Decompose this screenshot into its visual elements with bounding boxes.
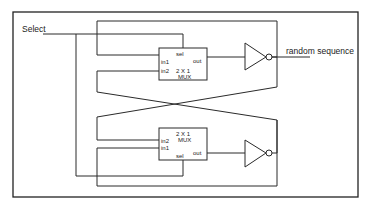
mux-bottom: 2 X 1 MUX in2 in1 out sel [159,128,207,160]
mux-top-out-label: out [193,58,202,64]
inverter-top-icon [245,43,272,70]
bottom-inverter-out-wire [272,120,277,153]
output-label: random sequence [286,46,354,56]
mux-top-in1-label: in1 [161,59,170,65]
mux-bottom-sel-label: sel [176,153,184,159]
mux-top: sel out in1 in2 2 X 1 MUX [159,48,207,80]
mux-top-title2: MUX [178,74,191,80]
mux-bottom-title2: MUX [178,137,191,143]
mux-bottom-in2-label: in2 [161,138,170,144]
inverter-bottom-icon [245,140,272,167]
mux-bottom-out-label: out [193,150,202,156]
outer-frame [13,12,358,197]
mux-top-sel-label: sel [176,51,184,57]
circuit-diagram: sel out in1 in2 2 X 1 MUX random sequenc… [0,0,375,210]
mux-top-in2-label: in2 [161,68,170,74]
select-label: Select [22,24,46,34]
mux-bottom-in1-label: in1 [161,145,170,151]
